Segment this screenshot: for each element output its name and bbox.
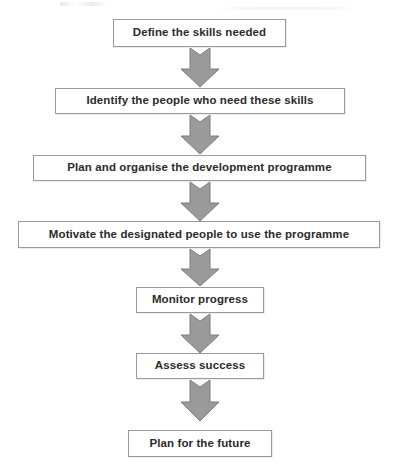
- scan-artifact: [60, 2, 180, 6]
- flowchart-node-step-4: Motivate the designated people to use th…: [18, 221, 380, 248]
- flowchart-arrow-down-icon: [177, 114, 223, 156]
- flowchart-diagram: Define the skills needed Identify the pe…: [0, 0, 398, 475]
- flowchart-node-label: Plan and organise the development progra…: [67, 162, 331, 174]
- flowchart-node-step-7: Plan for the future: [128, 430, 272, 457]
- flowchart-node-label: Identify the people who need these skill…: [86, 95, 313, 107]
- flowchart-node-label: Assess success: [155, 360, 245, 372]
- flowchart-arrow-down-icon: [177, 248, 223, 288]
- flowchart-node-step-2: Identify the people who need these skill…: [55, 88, 345, 114]
- flowchart-arrow-down-icon: [177, 47, 223, 89]
- flowchart-node-step-1: Define the skills needed: [113, 19, 286, 47]
- scan-artifact: [212, 7, 362, 10]
- flowchart-arrow-down-icon: [177, 181, 223, 223]
- flowchart-node-step-5: Monitor progress: [136, 287, 264, 313]
- flowchart-node-label: Plan for the future: [150, 438, 251, 450]
- flowchart-arrow-down-icon: [177, 379, 223, 423]
- flowchart-node-label: Define the skills needed: [133, 27, 266, 39]
- flowchart-node-step-6: Assess success: [136, 353, 264, 379]
- flowchart-arrow-down-icon: [177, 313, 223, 355]
- flowchart-node-label: Motivate the designated people to use th…: [49, 229, 349, 241]
- flowchart-node-step-3: Plan and organise the development progra…: [33, 155, 366, 181]
- flowchart-node-label: Monitor progress: [152, 294, 248, 306]
